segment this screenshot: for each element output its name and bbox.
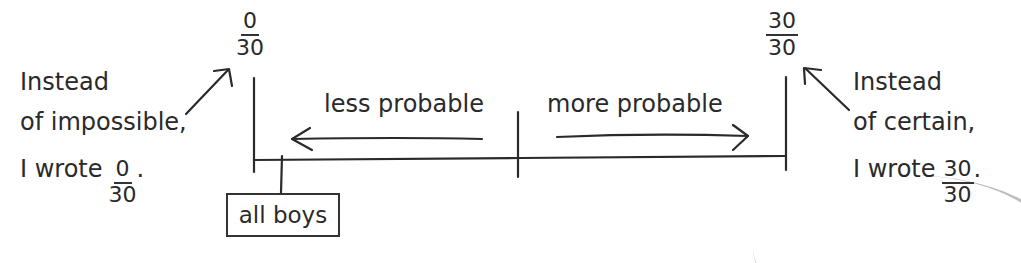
right-arrow-head [733, 125, 748, 150]
right-note-pointer [806, 69, 849, 110]
all-boys-label-box: all boys [226, 193, 340, 237]
left-note-pointer-head [214, 69, 232, 86]
right-note-line3: I wrote3030. [853, 146, 981, 194]
left-note-prefix: I wrote [20, 155, 103, 183]
left-end-denominator: 30 [236, 36, 264, 59]
left-note-line2: of impossible, [20, 108, 187, 136]
right-note-denominator: 30 [944, 184, 972, 206]
left-note-line3: I wrote030. [20, 146, 144, 194]
right-end-denominator: 30 [768, 36, 796, 59]
right-note-line1: Instead [853, 68, 942, 96]
left-note-line1: Instead [20, 68, 109, 96]
number-line [254, 156, 786, 160]
right-note-numerator: 30 [942, 158, 974, 184]
left-arrow-shaft [292, 138, 482, 139]
right-note-line2: of certain, [853, 108, 975, 136]
less-probable-label: less probable [324, 90, 484, 118]
left-note-pointer [186, 70, 228, 114]
left-end-numerator: 0 [241, 10, 259, 36]
marker-stem [281, 156, 282, 193]
left-end-fraction: 0 30 [236, 10, 264, 59]
left-note-suffix: . [137, 155, 145, 183]
left-note-fraction: 030 [109, 158, 137, 206]
left-note-numerator: 0 [114, 158, 132, 184]
right-note-suffix: . [974, 155, 982, 183]
left-note-denominator: 30 [109, 184, 137, 206]
right-arrow-shaft [557, 135, 748, 137]
right-note-fraction: 3030 [942, 158, 974, 206]
right-note-prefix: I wrote [853, 155, 936, 183]
all-boys-label: all boys [239, 202, 327, 228]
right-end-fraction: 30 30 [766, 10, 798, 59]
right-end-numerator: 30 [766, 10, 798, 36]
more-probable-label: more probable [547, 90, 723, 118]
